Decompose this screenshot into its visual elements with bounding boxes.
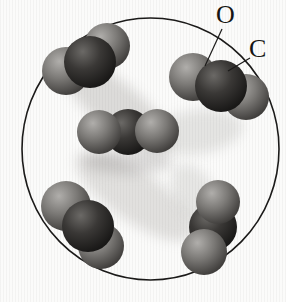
carbon-label: C [249, 36, 266, 62]
carbon-leader-line [228, 58, 250, 71]
oxygen-leader-line [205, 29, 222, 66]
label-leader-lines [0, 0, 286, 302]
molecular-diagram: O C [0, 0, 286, 302]
oxygen-label: O [216, 2, 235, 28]
